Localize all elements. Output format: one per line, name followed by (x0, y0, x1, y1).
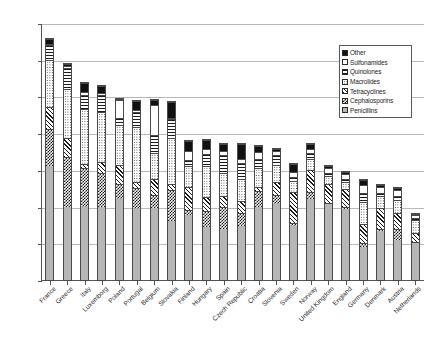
legend-item: Other (342, 48, 409, 58)
bar-segment (98, 207, 105, 280)
bar-segment (203, 166, 210, 197)
bar-segment (64, 89, 71, 138)
legend-label: Macrolides (350, 78, 380, 85)
bar-segment (116, 100, 123, 118)
bar-segment (98, 112, 105, 162)
bar-segment (151, 179, 158, 195)
bar-segment (290, 226, 297, 280)
bar-segment (185, 215, 192, 280)
bar-segment (185, 187, 192, 210)
legend-swatch-icon (342, 59, 348, 65)
bar-segment (290, 192, 297, 223)
bar-segment (394, 200, 401, 213)
bar-segment (133, 112, 140, 127)
bar-segment (307, 170, 314, 192)
bar-segment (255, 168, 262, 187)
legend-item: Tetracyclines (342, 86, 409, 96)
bar-column (411, 213, 420, 281)
bar-segment (133, 101, 140, 110)
bar-segment (203, 140, 210, 149)
bar-segment (273, 204, 280, 280)
bar-segment (238, 201, 245, 213)
bar-segment (168, 119, 175, 137)
bar-segment (168, 138, 175, 184)
bar-segment (46, 166, 53, 280)
legend-label: Quinolones (350, 68, 381, 75)
stacked-bar-chart: 0.005.0010.0015.0020.0025.0030.0035.00 F… (0, 0, 430, 341)
bar-segment (185, 141, 192, 151)
bar-segment (307, 192, 314, 199)
bar-segment (412, 243, 419, 280)
bar-segment (360, 202, 367, 223)
bar-segment (203, 227, 210, 280)
bar-segment (273, 155, 280, 165)
bar-segment (342, 182, 349, 189)
legend-swatch-icon (342, 69, 348, 75)
bar-segment (98, 173, 105, 208)
bar-column (376, 184, 385, 281)
bar-segment (220, 207, 227, 230)
bar-segment (360, 185, 367, 192)
bar-segment (412, 233, 419, 242)
bar-segment (360, 224, 367, 243)
legend-item: Cephalosporins (342, 96, 409, 106)
bar-segment (325, 176, 332, 184)
bar-segment (394, 229, 401, 239)
legend-item: Macrolides (342, 77, 409, 87)
bar-segment (255, 159, 262, 168)
bar-column (393, 187, 402, 281)
bar-segment (307, 159, 314, 170)
bar-segment (377, 208, 384, 229)
x-axis-labels: FranceGreeceItalyLuxemborgPolandPortugal… (41, 285, 424, 341)
bar-segment (342, 209, 349, 280)
bar-segment (394, 240, 401, 280)
bar-segment (342, 189, 349, 207)
bar-segment (220, 229, 227, 280)
bar-column (45, 38, 54, 282)
bar-segment (255, 191, 262, 207)
bar-segment (238, 213, 245, 225)
bar-column (184, 140, 193, 281)
legend-swatch-icon (342, 88, 348, 94)
bar-segment (81, 83, 88, 92)
bar-segment (220, 144, 227, 151)
bar-segment (168, 221, 175, 280)
bar-segment (64, 157, 71, 206)
bar-segment (220, 196, 227, 207)
bar-segment (290, 164, 297, 172)
bar-column (289, 163, 298, 281)
bar-segment (151, 208, 158, 280)
legend-swatch-icon (342, 107, 348, 113)
bar-segment (377, 231, 384, 280)
bar-segment (377, 196, 384, 208)
legend-swatch-icon (342, 79, 348, 85)
bar-segment (133, 127, 140, 182)
bar-segment (46, 107, 53, 129)
bar-segment (168, 190, 175, 222)
x-tick-label: France (37, 285, 56, 304)
bar-segment (116, 125, 123, 165)
bar-segment (238, 226, 245, 280)
bar-segment (151, 135, 158, 153)
bar-column (63, 63, 72, 281)
bar-segment (360, 193, 367, 203)
bar-column (97, 85, 106, 282)
legend-swatch-icon (342, 98, 348, 104)
legend-label: Cephalosporins (350, 97, 393, 104)
bar-segment (255, 152, 262, 159)
bar-segment (290, 181, 297, 192)
bar-segment (116, 184, 123, 199)
legend-label: Other (350, 49, 365, 56)
bar-column (219, 143, 228, 281)
bar-segment (412, 220, 419, 233)
bar-segment (307, 199, 314, 280)
x-tick-label: Greece (54, 285, 74, 305)
bar-segment (360, 247, 367, 280)
bar-segment (273, 182, 280, 194)
legend-label: Sulfonamides (350, 59, 388, 66)
bar-column (115, 98, 124, 281)
bar-segment (255, 207, 262, 280)
bar-segment (203, 154, 210, 166)
bar-segment (325, 184, 332, 203)
bar-segment (185, 166, 192, 187)
